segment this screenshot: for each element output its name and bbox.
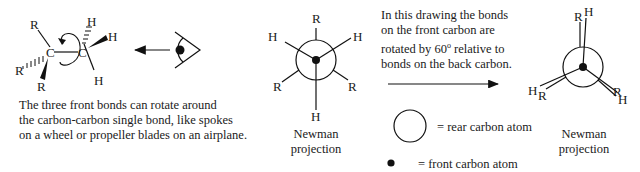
explanation-text-part: relative to bbox=[451, 42, 504, 56]
sawhorse-right-h: H bbox=[108, 30, 117, 43]
newman1-upper-right-h: H bbox=[353, 30, 362, 43]
sawhorse-bottom-r: R bbox=[37, 80, 46, 93]
newman-eclipsed bbox=[540, 18, 617, 96]
explanation-line: on the front carbon are bbox=[381, 23, 512, 38]
explanation-text: In this drawing the bonds on the front c… bbox=[381, 8, 512, 72]
front-carbon-symbol bbox=[387, 159, 394, 166]
caption-line: on a wheel or propeller blades on an air… bbox=[19, 128, 247, 143]
caption-line: the carbon-carbon single bond, like spok… bbox=[19, 113, 247, 128]
newman2-right-front-h: H bbox=[618, 93, 627, 106]
newman1-upper-left-h: H bbox=[268, 30, 277, 43]
newman-staggered bbox=[282, 28, 351, 110]
newman1-caption: Newman projection bbox=[286, 127, 346, 157]
sawhorse-caption: The three front bonds can rotate around … bbox=[19, 98, 247, 143]
sawhorse-top-h: H bbox=[87, 15, 96, 28]
sawhorse-left-r: R bbox=[15, 64, 24, 77]
newman2-left-back-r: R bbox=[538, 89, 547, 102]
sawhorse-back-carbon: C bbox=[78, 46, 87, 59]
newman1-bottom-h: H bbox=[311, 110, 320, 123]
legend-front-label: = front carbon atom bbox=[418, 157, 518, 172]
newman1-lower-left-r: R bbox=[273, 80, 282, 93]
legend-rear-label: = rear carbon atom bbox=[437, 120, 532, 135]
hashed-bond-top bbox=[82, 27, 92, 43]
caption-line: The three front bonds can rotate around bbox=[19, 98, 247, 113]
rear-carbon-symbol bbox=[394, 110, 426, 142]
newman2-left-front-h: H bbox=[528, 84, 537, 97]
sawhorse-top-r: R bbox=[30, 18, 39, 31]
newman1-lower-right-r: R bbox=[348, 80, 357, 93]
wedge-bond-right bbox=[88, 35, 108, 48]
newman2-top-back-r: R bbox=[574, 10, 583, 23]
caption-line: Newman bbox=[554, 127, 614, 142]
explanation-line: rotated by 60o relative to bbox=[381, 38, 512, 57]
newman2-top-front-h: H bbox=[584, 5, 593, 18]
explanation-line: bonds on the back carbon. bbox=[381, 57, 512, 72]
caption-line: Newman bbox=[286, 127, 346, 142]
newman2-caption: Newman projection bbox=[554, 127, 614, 157]
caption-line: projection bbox=[286, 142, 346, 157]
sawhorse-front-carbon: C bbox=[46, 46, 55, 59]
explanation-text-part: rotated by 60 bbox=[381, 42, 447, 56]
hashed-bond-left bbox=[23, 56, 43, 69]
sawhorse-bottom-h: H bbox=[94, 74, 103, 87]
newman1-top-r: R bbox=[312, 12, 321, 25]
caption-line: projection bbox=[554, 142, 614, 157]
wedge-bond-bottom bbox=[40, 58, 48, 80]
explanation-line: In this drawing the bonds bbox=[381, 8, 512, 23]
